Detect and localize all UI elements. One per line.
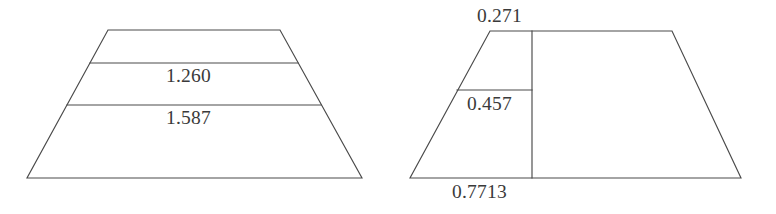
right-trapezoid-middle-label: 0.457: [467, 94, 512, 114]
figure-container: 1.260 1.587 0.271 0.457 0.7713: [0, 0, 776, 214]
left-trapezoid-group: [27, 30, 362, 178]
figure-drawing: [0, 0, 776, 214]
right-trapezoid-bottom-label: 0.7713: [452, 182, 507, 202]
left-trapezoid-outline: [27, 30, 362, 178]
left-trapezoid-lower-label: 1.587: [166, 108, 211, 128]
right-trapezoid-group: [410, 31, 741, 178]
left-trapezoid-upper-label: 1.260: [166, 66, 211, 86]
right-trapezoid-top-label: 0.271: [477, 6, 522, 26]
right-trapezoid-outline: [410, 31, 741, 178]
